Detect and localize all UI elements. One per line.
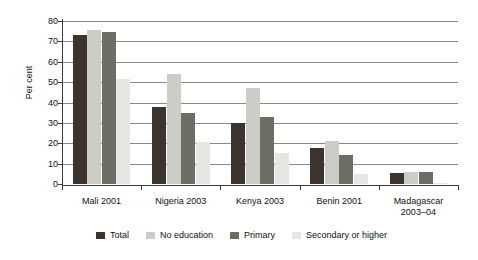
bar	[152, 107, 166, 184]
bar-group	[300, 21, 379, 184]
bar	[354, 174, 368, 184]
legend-label: Primary	[244, 231, 275, 240]
bar-group	[220, 21, 299, 184]
legend-item: Secondary or higher	[292, 231, 387, 240]
bar	[87, 30, 101, 184]
legend-label: Total	[110, 231, 129, 240]
y-axis-tick-label: 70	[48, 37, 58, 46]
bar	[167, 74, 181, 184]
legend-item: Primary	[230, 231, 275, 240]
y-axis-tick-label: 10	[48, 160, 58, 169]
bar	[339, 155, 353, 184]
bar	[102, 32, 116, 184]
x-axis-tick	[220, 185, 221, 190]
y-axis-tick-label: 40	[48, 99, 58, 108]
y-axis-tick-labels: 80706050403020100	[26, 0, 58, 186]
legend-item: Total	[96, 231, 129, 240]
y-axis-tick-label: 80	[48, 17, 58, 26]
x-axis-tick	[300, 185, 301, 190]
plot-area	[62, 21, 458, 184]
bar	[390, 173, 404, 184]
x-axis-category-label: Mali 2001	[62, 196, 141, 207]
bar	[246, 88, 260, 184]
bar	[181, 113, 195, 184]
bar	[404, 172, 418, 184]
bar	[419, 172, 433, 184]
bar	[275, 153, 289, 184]
bar-group	[379, 21, 458, 184]
x-axis-line	[62, 185, 459, 186]
bar	[433, 183, 447, 184]
x-axis-category-label: Nigeria 2003	[141, 196, 220, 207]
bar	[196, 142, 210, 184]
x-axis-category-label: Kenya 2003	[220, 196, 299, 207]
bar-group	[141, 21, 220, 184]
bar	[260, 117, 274, 184]
x-axis-tick	[141, 185, 142, 190]
bar-chart: Per cent 80706050403020100 TotalNo educa…	[0, 0, 478, 260]
legend-swatch	[96, 232, 105, 239]
y-axis-tick-label: 60	[48, 58, 58, 67]
bar	[325, 141, 339, 184]
bar	[231, 123, 245, 184]
y-axis-tick-label: 20	[48, 139, 58, 148]
x-axis-category-label: Madagascar 2003–04	[379, 196, 458, 218]
legend-swatch	[230, 232, 239, 239]
x-axis-category-label: Benin 2001	[300, 196, 379, 207]
x-axis-tick	[379, 185, 380, 190]
x-axis-tick	[458, 185, 459, 190]
bar-group	[62, 21, 141, 184]
bar	[116, 79, 130, 184]
bar	[73, 35, 87, 184]
chart-legend: TotalNo educationPrimarySecondary or hig…	[96, 231, 404, 240]
bar	[310, 148, 324, 184]
legend-item: No education	[146, 231, 213, 240]
legend-swatch	[292, 232, 301, 239]
legend-label: No education	[160, 231, 213, 240]
y-axis-tick-label: 30	[48, 119, 58, 128]
x-axis-tick	[62, 185, 63, 190]
y-axis-tick-label: 50	[48, 78, 58, 87]
legend-swatch	[146, 232, 155, 239]
legend-label: Secondary or higher	[306, 231, 387, 240]
